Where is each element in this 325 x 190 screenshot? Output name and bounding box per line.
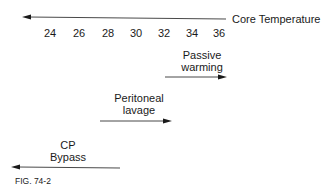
passive-warming-line1: Passive xyxy=(172,49,232,61)
tick-32: 32 xyxy=(158,27,170,39)
cp-bypass-line1: CP xyxy=(43,139,93,151)
axis-arrow xyxy=(22,15,226,20)
figure-label: FIG. 74-2 xyxy=(15,176,51,186)
tick-36: 36 xyxy=(213,27,225,39)
tick-26: 26 xyxy=(73,27,85,39)
peritoneal-lavage-label: Peritoneal lavage xyxy=(104,92,174,116)
tick-34: 34 xyxy=(186,27,198,39)
tick-28: 28 xyxy=(102,27,114,39)
cp-bypass-label: CP Bypass xyxy=(43,139,93,163)
cp-bypass-line2: Bypass xyxy=(43,151,93,163)
tick-24: 24 xyxy=(44,27,56,39)
cp-bypass-arrow xyxy=(11,165,120,170)
tick-30: 30 xyxy=(130,27,142,39)
peritoneal-lavage-line1: Peritoneal xyxy=(104,92,174,104)
peritoneal-lavage-line2: lavage xyxy=(104,104,174,116)
passive-warming-line2: warming xyxy=(172,61,232,73)
passive-warming-label: Passive warming xyxy=(172,49,232,73)
axis-title: Core Temperature xyxy=(232,13,320,25)
peritoneal-lavage-arrow xyxy=(100,119,172,124)
passive-warming-arrow xyxy=(165,75,227,80)
